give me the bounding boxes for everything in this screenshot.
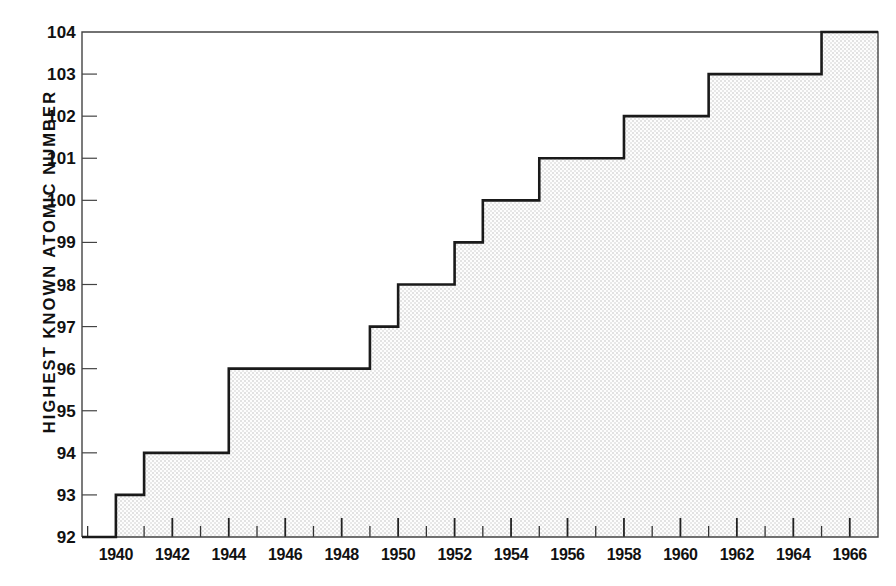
step-area-fill: [82, 32, 878, 537]
step-chart-svg: [0, 0, 896, 586]
chart-container: HIGHEST KNOWN ATOMIC NUMBER 929394959697…: [0, 0, 896, 586]
